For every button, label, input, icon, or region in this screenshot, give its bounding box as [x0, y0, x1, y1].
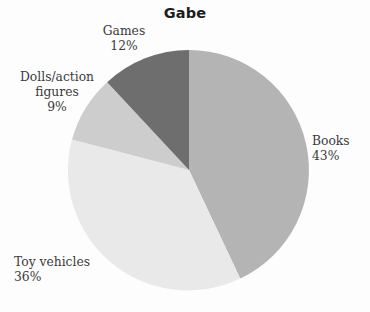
- pie-label-toy-vehicles: Toy vehicles 36%: [14, 255, 90, 285]
- pie-label-dolls-value: 9%: [8, 100, 106, 115]
- pie-label-books-name: Books: [312, 134, 350, 149]
- pie-label-dolls-action-figures: Dolls/action figures 9%: [8, 70, 106, 115]
- pie-label-toy-vehicles-value: 36%: [14, 270, 90, 285]
- pie-label-games-value: 12%: [88, 39, 160, 54]
- pie-label-dolls-name-line2: figures: [8, 85, 106, 100]
- pie-label-toy-vehicles-name: Toy vehicles: [14, 255, 90, 270]
- pie-label-games-name: Games: [88, 24, 160, 39]
- pie-label-dolls-name-line1: Dolls/action: [8, 70, 106, 85]
- pie-label-books-value: 43%: [312, 149, 350, 164]
- pie-label-books: Books 43%: [312, 134, 350, 164]
- pie-chart-figure: Gabe Books 43% Toy vehicles 36% Dolls/ac…: [0, 0, 370, 312]
- pie-label-games: Games 12%: [88, 24, 160, 54]
